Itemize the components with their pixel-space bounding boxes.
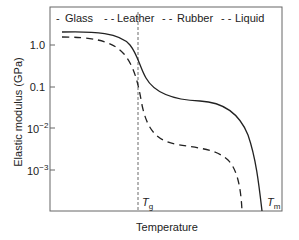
tg-label: Tg xyxy=(142,196,153,211)
legend-marker-glass: - xyxy=(56,12,60,24)
y-axis-ticks xyxy=(50,45,55,170)
tm-label: Tm xyxy=(267,196,281,211)
series-dashed-curve xyxy=(62,37,242,211)
chart-figure: - Glass - - Leather - - Rubber - - Liqui… xyxy=(0,0,299,240)
y-tick-1: 1.0 xyxy=(30,39,45,51)
legend-marker-liquid: - - xyxy=(221,12,232,24)
y-tick-1e-3: 10−3 xyxy=(27,163,49,177)
legend-item-liquid: Liquid xyxy=(235,12,264,24)
chart-svg: - Glass - - Leather - - Rubber - - Liqui… xyxy=(0,0,299,240)
legend-marker-leather: - - xyxy=(104,12,115,24)
x-axis-label: Temperature xyxy=(136,221,198,233)
series-solid-curve xyxy=(62,32,262,211)
plot-frame xyxy=(50,7,282,211)
legend-marker-rubber: - - xyxy=(162,12,173,24)
legend: - Glass - - Leather - - Rubber - - Liqui… xyxy=(56,12,264,24)
legend-item-leather: Leather xyxy=(117,12,155,24)
y-tick-1e-2: 10−2 xyxy=(27,121,49,135)
legend-item-rubber: Rubber xyxy=(177,12,213,24)
y-axis-label: Elastic modulus (GPa) xyxy=(12,57,24,166)
y-tick-0-1: 0.1 xyxy=(30,81,45,93)
legend-item-glass: Glass xyxy=(65,12,94,24)
y-axis-tick-labels: 1.0 0.1 10−2 10−3 xyxy=(27,39,49,177)
